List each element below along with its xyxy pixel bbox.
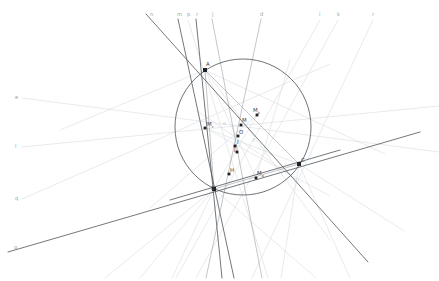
point-marker-m-a — [255, 177, 258, 180]
line-label-e: e — [15, 94, 18, 100]
label-e-center: e — [223, 121, 226, 126]
point-marker-h — [228, 173, 231, 176]
point-label-o: O — [239, 129, 243, 135]
line-label-j: j — [211, 11, 214, 18]
vertex-label-c: C — [301, 157, 305, 163]
line-label-d: d — [260, 11, 263, 17]
point-marker-j — [236, 151, 239, 154]
line-label-g: g — [14, 244, 17, 251]
vertex-label-a: A — [206, 61, 210, 67]
point-marker-m — [240, 124, 243, 127]
vertex-label-b: B — [211, 185, 215, 191]
point-marker-o — [237, 135, 240, 138]
geometry-diagram: McMbMaMOIJH ABC nmprjdikr elqg ef — [0, 0, 439, 281]
vertex-marker-a — [203, 68, 207, 72]
point-marker-m-c — [204, 127, 207, 130]
point-label-j: J — [233, 146, 236, 153]
line-label-k: k — [337, 11, 340, 17]
line-label-m: m — [177, 11, 182, 17]
line-label-p: p — [187, 11, 191, 18]
geometry-figure-canvas: McMbMaMOIJH ABC nmprjdikr elqg ef — [0, 0, 439, 281]
line-label-i: i — [319, 11, 321, 17]
line-label-n: n — [150, 11, 153, 17]
line-label-l: l — [15, 143, 17, 149]
point-label-m: M — [242, 117, 247, 123]
line-label-q: q — [15, 195, 18, 202]
point-label-h: H — [230, 167, 234, 173]
figure-background — [0, 0, 439, 281]
